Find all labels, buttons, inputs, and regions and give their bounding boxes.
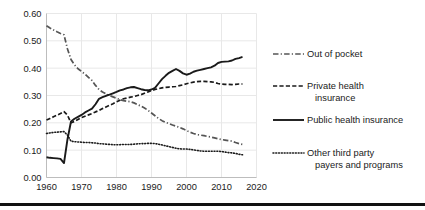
legend-label-text-line2: insurance <box>315 93 355 103</box>
y-tick-label: 0.50 <box>23 36 41 46</box>
legend-label-text: Other third party <box>307 148 375 158</box>
y-tick-label: 0.20 <box>23 118 41 128</box>
x-tick-label: 1960 <box>36 182 57 192</box>
x-tick-label: 1990 <box>141 182 162 192</box>
y-tick-label: 0.40 <box>23 64 41 74</box>
y-tick-label: 0.10 <box>23 146 41 156</box>
y-tick-label: 0.30 <box>23 91 41 101</box>
legend-label-text-line2: payers and programs <box>315 160 403 170</box>
chart-background <box>0 0 425 210</box>
y-tick-label: 0.60 <box>23 9 41 19</box>
x-tick-label: 2020 <box>246 182 267 192</box>
x-tick-label: 2010 <box>211 182 232 192</box>
x-tick-label: 2000 <box>176 182 197 192</box>
legend-label-text: Private health <box>307 81 364 91</box>
x-tick-label: 1980 <box>106 182 127 192</box>
x-tick-label: 1970 <box>71 182 92 192</box>
chart-figure: 0.000.100.200.300.400.500.60 19601970198… <box>0 0 425 210</box>
legend-label-text: Public health insurance <box>307 115 403 125</box>
line-chart: 0.000.100.200.300.400.500.60 19601970198… <box>0 0 425 210</box>
legend-label-text: Out of pocket <box>307 49 363 59</box>
bottom-divider-bar <box>0 203 425 206</box>
